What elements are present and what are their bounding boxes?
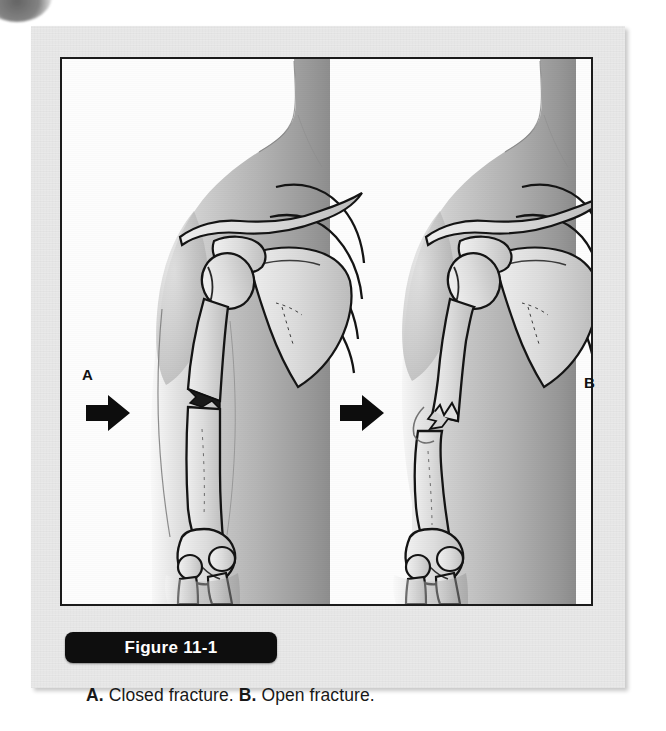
anatomical-illustration — [62, 59, 591, 604]
trochlea-b — [437, 547, 463, 571]
panel-b-letter-label: B — [584, 374, 595, 391]
page-corner-ornament — [0, 0, 52, 22]
caption-text-a: Closed fracture. — [104, 685, 239, 705]
figure-number-label: Figure 11-1 — [124, 638, 217, 658]
figure-number-tab: Figure 11-1 — [65, 632, 277, 663]
figure-artwork-box — [60, 57, 593, 606]
capitulum-b — [406, 555, 430, 579]
caption-label-b: B. — [239, 685, 257, 705]
figure-panel: A B Figure 11-1 A. Closed fracture. B. O… — [31, 26, 625, 688]
capitulum-a — [178, 555, 202, 579]
caption-text-b: Open fracture. — [256, 685, 374, 705]
figure-caption: A. Closed fracture. B. Open fracture. — [86, 685, 606, 706]
panel-a-letter-label: A — [82, 366, 93, 383]
trochlea-a — [209, 547, 235, 571]
caption-label-a: A. — [86, 685, 104, 705]
